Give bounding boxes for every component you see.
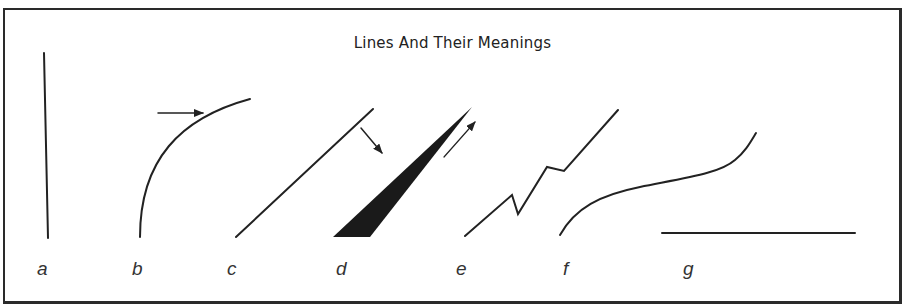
label-e: e [456, 258, 467, 280]
label-d: d [336, 258, 347, 280]
line-c-diagonal [236, 109, 373, 237]
label-f: f [563, 258, 568, 280]
line-b-curve [140, 99, 250, 237]
label-g: g [683, 258, 694, 280]
label-c: c [227, 258, 237, 280]
arrow-d-icon [361, 128, 382, 153]
label-b: b [132, 258, 143, 280]
line-e-zigzag [465, 110, 618, 236]
arrow-e-icon [444, 122, 475, 157]
label-a: a [37, 258, 48, 280]
line-f-scurve [560, 133, 756, 235]
line-a-vertical [44, 53, 48, 238]
